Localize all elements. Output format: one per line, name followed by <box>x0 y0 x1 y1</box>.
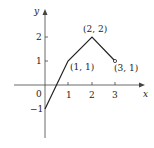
x-axis-label: x <box>143 89 148 99</box>
point-label-3-1: (3, 1) <box>114 63 138 73</box>
function-line <box>45 37 115 109</box>
y-axis-arrow-icon <box>43 9 48 15</box>
point-label-1-1: (1, 1) <box>70 62 94 72</box>
point-label-2-2: (2, 2) <box>83 24 107 34</box>
function-graph: y x 0 1 2 3 1 2 −1 (1, 1) (2, 2) (3, 1) <box>0 0 154 148</box>
y-tick-label-2: 2 <box>36 32 42 42</box>
y-tick-label-neg1: −1 <box>30 104 43 114</box>
x-axis-arrow-icon <box>139 83 145 88</box>
x-tick-label-2: 2 <box>89 90 95 100</box>
x-tick-label-1: 1 <box>66 90 72 100</box>
y-axis-label: y <box>33 6 40 16</box>
x-tick-label-3: 3 <box>112 90 118 100</box>
origin-label: 0 <box>36 89 42 99</box>
y-tick-label-1: 1 <box>36 56 42 66</box>
